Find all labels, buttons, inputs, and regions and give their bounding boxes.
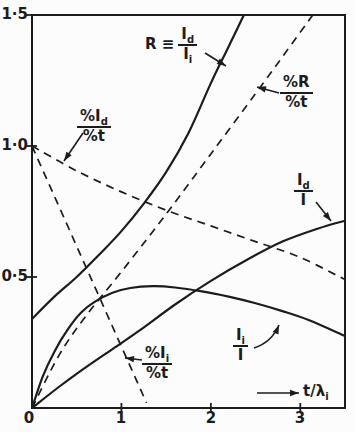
curve-label-IiI: Ii I <box>233 328 248 364</box>
y-tick-label-1-5: 1·5 <box>0 7 28 23</box>
x-tick-label-2: 2 <box>206 411 216 427</box>
curve-R <box>32 15 244 319</box>
y-tick-label-1-0: 1·0 <box>0 138 28 154</box>
x-axis-arrow <box>257 390 299 396</box>
x-axis-label: t/λi <box>303 384 329 400</box>
curve-label-IdI: Id I <box>294 173 313 209</box>
x-tick-label-1: 1 <box>116 411 126 427</box>
curve-dId <box>32 146 345 280</box>
curve-label-dR-dt: %R %t <box>280 75 313 111</box>
r-label-fraction: Id Ii <box>178 27 197 63</box>
curve-label-R: R ≡ Id Ii <box>145 27 197 63</box>
dr-label-arrow <box>257 86 279 93</box>
idi-label-arrow <box>316 202 331 221</box>
curve-dR <box>32 15 313 408</box>
curve-IiI <box>32 286 345 408</box>
r-label-prefix: R ≡ <box>145 37 174 53</box>
figure-ionization-current-ratios: 1·5 1·0 0·5 0 1 2 3 R ≡ Id Ii %R %t %Id … <box>0 0 355 432</box>
iii-label-arrow <box>254 325 279 348</box>
y-tick-label-0-5: 0·5 <box>0 269 28 285</box>
curve-label-dId-dt: %Id %t <box>77 109 111 145</box>
x-tick-label-3: 3 <box>295 411 305 427</box>
curve-label-dIi-dt: %Ii %t <box>142 346 172 382</box>
dii-label-arrow <box>125 356 142 362</box>
plot-canvas <box>0 0 355 432</box>
origin-tick-label: 0 <box>24 411 34 427</box>
